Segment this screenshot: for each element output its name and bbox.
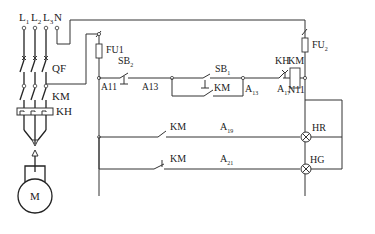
power-lines (20, 30, 48, 84)
hr-contact-label: KM (170, 121, 186, 132)
kh-thermal-elements (17, 108, 53, 146)
node-a21: A21 (220, 153, 233, 166)
lamp-hg (301, 164, 311, 174)
sb1-stop-button (174, 74, 243, 78)
circuit-diagram: L1 L2 L3 N QF KM (0, 0, 375, 234)
km-no-contact-hr (99, 131, 300, 137)
neutral-wire (57, 20, 305, 44)
node-a11: A11 (101, 82, 117, 92)
km-coil-label: KM (288, 55, 304, 66)
fuse-fu1 (96, 44, 102, 58)
connector-symbol (32, 150, 38, 156)
neutral-label: N (54, 11, 62, 23)
node-a13: A13 (142, 82, 159, 92)
sb1-label: SB1 (215, 63, 230, 76)
hg-lamp-label: HG (310, 154, 324, 165)
km-main-label: KM (52, 90, 70, 102)
km-hold-label: KM (214, 82, 230, 93)
node-a13b: A13 (245, 83, 258, 96)
kh-main-label: KH (56, 105, 72, 117)
km-hold-contact (172, 78, 243, 96)
phase-l3-label: L3 (43, 11, 54, 26)
lamp-hr (301, 132, 311, 142)
fuse-fu2 (302, 38, 308, 52)
motor-label: M (30, 190, 40, 202)
sb2-label: SB2 (118, 55, 133, 68)
terminal-l1 (22, 26, 26, 30)
phase-labels: L1 L2 L3 N (19, 11, 62, 26)
sb2-start-button (99, 73, 170, 78)
node-n11: N11 (288, 84, 305, 95)
phase-l1-label: L1 (19, 11, 30, 26)
terminal-l3 (44, 26, 48, 30)
km-main-contacts (20, 88, 46, 108)
fu1-label: FU1 (106, 44, 124, 55)
node-a19: A19 (220, 121, 233, 134)
sb1-actuator (201, 80, 209, 88)
hg-contact-label: KM (170, 153, 186, 164)
km-nc-contact-hg (99, 137, 300, 169)
hr-lamp-label: HR (312, 122, 326, 133)
control-supply-wire (46, 34, 99, 84)
terminal-n (55, 26, 59, 30)
phase-l2-label: L2 (31, 11, 42, 26)
fu2-label: FU2 (312, 39, 328, 52)
qf-label: QF (52, 62, 66, 74)
terminal-l2 (33, 26, 37, 30)
